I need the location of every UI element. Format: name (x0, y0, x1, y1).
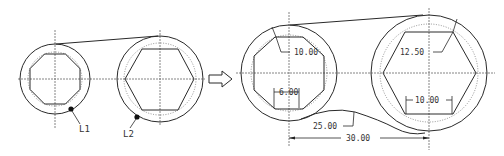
l2-leader (130, 119, 136, 128)
after-sketch (236, 8, 495, 150)
left-radius-leader (272, 27, 276, 37)
label-l2: L2 (123, 129, 134, 139)
dim-right-hexagon-width: 10.00 (415, 96, 439, 105)
dim-30-arrow-left (289, 137, 295, 140)
diagram-canvas: L1 L2 (0, 0, 504, 156)
l1-leader (72, 111, 80, 124)
right-arrow-icon (209, 71, 232, 87)
before-sketch (18, 30, 205, 128)
top-tangent-line (290, 15, 423, 25)
left-radius-leader-2 (276, 37, 290, 52)
fillet-leader (343, 112, 354, 126)
dim-30-arrow-right (423, 137, 429, 140)
dim-right-radius: 12.50 (400, 48, 424, 57)
dim-left-octagon-width: 6.00 (279, 88, 298, 97)
hexagon-1 (125, 49, 194, 110)
dim-center-distance: 30.00 (346, 134, 370, 143)
dim-fillet-radius: 25.00 (313, 122, 337, 131)
label-l1: L1 (79, 124, 90, 134)
right-radius-leader (433, 19, 457, 52)
dim-left-radius: 10.00 (294, 48, 318, 57)
l2-marker (134, 114, 139, 119)
l1-marker (68, 106, 73, 111)
